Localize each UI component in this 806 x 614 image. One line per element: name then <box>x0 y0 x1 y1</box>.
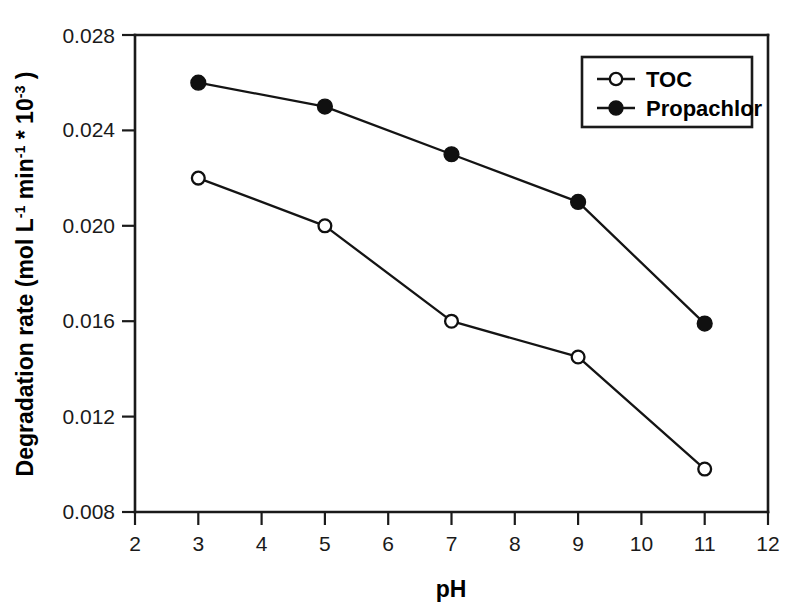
data-point-toc-ph3 <box>192 172 205 185</box>
x-axis-title: pH <box>436 576 467 602</box>
data-point-toc-ph9 <box>572 351 585 364</box>
y-axis-title: Degradation rate (mol L-1 min-1 * 10-3 ) <box>12 72 38 477</box>
x-tick-label-10: 12 <box>756 532 779 555</box>
x-tick-label-1: 3 <box>192 532 204 555</box>
data-point-propachlor-ph9 <box>571 195 586 210</box>
data-point-propachlor-ph3 <box>191 75 206 90</box>
y-tick-label-4: 0.024 <box>62 118 115 141</box>
x-tick-label-2: 4 <box>256 532 268 555</box>
y-axis-title-main: Degradation rate (mol L <box>12 218 38 476</box>
y-tick-label-2: 0.016 <box>62 309 115 332</box>
x-tick-label-7: 9 <box>572 532 584 555</box>
y-axis-title-sup2: -1 <box>12 146 28 159</box>
x-tick-label-8: 10 <box>630 532 653 555</box>
data-point-toc-ph11 <box>698 463 711 476</box>
y-axis-title-mid1: min <box>12 158 38 205</box>
x-tick-label-3: 5 <box>319 532 331 555</box>
data-point-toc-ph7 <box>445 315 458 328</box>
y-axis-title-sup3: -3 <box>12 86 28 99</box>
y-axis-title-mid2: * 10 <box>12 98 38 145</box>
data-point-propachlor-ph5 <box>318 99 333 114</box>
filled-circle-icon <box>609 101 623 115</box>
degradation-rate-vs-ph-line-chart: 0.008 0.012 0.016 0.020 0.024 0.028 2 3 … <box>0 0 806 614</box>
y-tick-label-1: 0.012 <box>62 405 115 428</box>
data-point-propachlor-ph7 <box>444 147 459 162</box>
legend[interactable]: TOC Propachlor <box>582 57 763 127</box>
x-tick-label-5: 7 <box>446 532 458 555</box>
x-tick-label-0: 2 <box>129 532 141 555</box>
y-axis-title-tail: ) <box>12 72 38 86</box>
legend-label-toc: TOC <box>646 67 692 92</box>
x-tick-label-9: 11 <box>694 532 716 555</box>
x-tick-label-4: 6 <box>382 532 394 555</box>
y-tick-label-3: 0.020 <box>62 214 115 237</box>
svg-text:Degradation rate (mol L-1 min-: Degradation rate (mol L-1 min-1 * 10-3 ) <box>12 72 38 477</box>
legend-label-propachlor: Propachlor <box>646 96 763 121</box>
open-circle-icon <box>610 73 622 85</box>
y-tick-label-5: 0.028 <box>62 24 115 47</box>
y-axis-title-sup1: -1 <box>12 206 28 219</box>
data-point-propachlor-ph11 <box>697 316 712 331</box>
x-tick-label-6: 8 <box>509 532 521 555</box>
y-tick-label-0: 0.008 <box>62 500 115 523</box>
data-point-toc-ph5 <box>319 219 332 232</box>
chart-figure: 0.008 0.012 0.016 0.020 0.024 0.028 2 3 … <box>0 0 806 614</box>
